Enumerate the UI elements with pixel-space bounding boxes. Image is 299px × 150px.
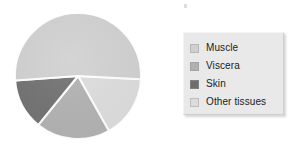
pie-chart-svg xyxy=(14,12,142,140)
legend-item-muscle[interactable]: Muscle xyxy=(190,39,283,57)
pie-chart-figure: Muscle Viscera Skin Other tissues xyxy=(0,0,299,150)
legend-swatch-viscera xyxy=(190,62,199,71)
legend-label-other-tissues: Other tissues xyxy=(206,97,266,107)
chart-legend: Muscle Viscera Skin Other tissues xyxy=(183,32,284,115)
legend-item-other-tissues[interactable]: Other tissues xyxy=(190,93,283,111)
legend-item-skin[interactable]: Skin xyxy=(190,75,283,93)
legend-label-skin: Skin xyxy=(206,79,226,89)
legend-label-muscle: Muscle xyxy=(206,43,238,53)
pie-chart xyxy=(14,12,142,140)
legend-swatch-skin xyxy=(190,80,199,89)
legend-label-viscera: Viscera xyxy=(206,61,240,71)
legend-item-viscera[interactable]: Viscera xyxy=(190,57,283,75)
legend-swatch-muscle xyxy=(190,44,199,53)
stray-speck-mark xyxy=(184,4,187,8)
pie-texture-overlay xyxy=(15,13,141,139)
legend-swatch-other-tissues xyxy=(190,98,199,107)
